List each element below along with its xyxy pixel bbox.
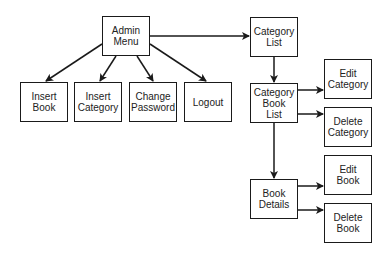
node-admin-menu: Admin Menu	[102, 16, 150, 56]
node-edit-category: Edit Category	[324, 59, 372, 99]
node-book-details: Book Details	[250, 179, 298, 219]
node-category-list: Category List	[250, 17, 298, 57]
node-insert-book: Insert Book	[20, 82, 68, 122]
node-change-password: Change Password	[129, 82, 177, 122]
node-delete-category: Delete Category	[324, 107, 372, 147]
node-edit-book: Edit Book	[324, 155, 372, 195]
node-delete-book: Delete Book	[324, 203, 372, 243]
node-insert-category: Insert Category	[74, 82, 122, 122]
arrow-admin-menu-to-change-password	[137, 56, 153, 81]
node-logout: Logout	[184, 82, 232, 122]
node-category-book-list: Category Book List	[250, 83, 298, 123]
arrow-admin-menu-to-logout	[150, 44, 206, 81]
arrow-admin-menu-to-insert-book	[46, 44, 102, 81]
diagram-canvas: Admin MenuInsert BookInsert CategoryChan…	[0, 0, 391, 255]
arrow-admin-menu-to-insert-category	[100, 56, 116, 81]
